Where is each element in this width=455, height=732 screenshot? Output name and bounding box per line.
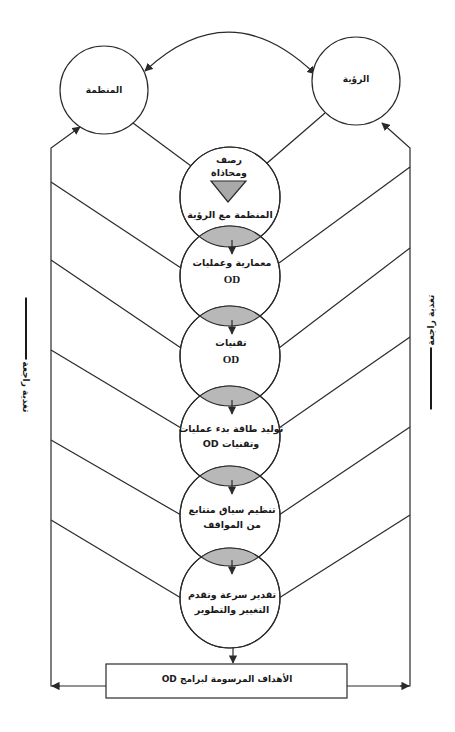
feedback-label-left: تغذية راجعة bbox=[21, 298, 31, 413]
vision-label: الرؤية bbox=[343, 73, 370, 87]
right-feedback-loop bbox=[347, 123, 410, 686]
sequencing-label: تنظيم سياق متتابع من المواقف bbox=[188, 503, 275, 532]
right-diagonal-connectors bbox=[279, 167, 410, 598]
change-pace-label: تقدير سرعة وتقدم التغيير والتطوير bbox=[188, 588, 276, 617]
left-diagonal-connectors bbox=[51, 182, 181, 598]
feedback-rule-right bbox=[430, 347, 431, 409]
architecture-label: معمارية وعمليات OD bbox=[193, 256, 272, 288]
startup-energy-label: توليد طاقة بدء عمليات وتقنيات OD bbox=[179, 422, 284, 451]
left-feedback-loop bbox=[51, 127, 106, 686]
alignment-label-line2: ومحاذاة bbox=[211, 166, 247, 181]
goals-label: الأهداف المرسومة لبرامج OD bbox=[162, 673, 293, 687]
alignment-label-line3: المنظمة مع الرؤية bbox=[187, 208, 272, 223]
techniques-label: تقنيات OD bbox=[215, 336, 246, 368]
feedback-rule-left bbox=[25, 298, 26, 360]
organization-label: المنظمة bbox=[86, 84, 122, 98]
feedback-label-right: تغذية راجعة bbox=[426, 295, 436, 410]
bidirectional-arc-arrow bbox=[145, 32, 315, 74]
